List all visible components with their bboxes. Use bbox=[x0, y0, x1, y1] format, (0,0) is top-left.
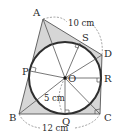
tangent-label-p: P bbox=[22, 66, 29, 77]
measurement-bc: 12 cm bbox=[42, 123, 68, 133]
vertex-label-c: C bbox=[104, 112, 112, 123]
tangent-label-s: S bbox=[82, 32, 89, 43]
vertex-label-a: A bbox=[32, 7, 41, 18]
vertex-label-b: B bbox=[9, 112, 16, 123]
geometry-diagram: A D C B O P S R Q 10 cm 12 cm 5 cm bbox=[0, 0, 119, 140]
measurement-ad: 10 cm bbox=[68, 18, 94, 28]
measurement-radius: 5 cm bbox=[44, 93, 65, 103]
vertex-label-d: D bbox=[104, 48, 112, 59]
center-point bbox=[63, 76, 66, 79]
tangent-label-r: R bbox=[104, 73, 112, 84]
center-label-o: O bbox=[68, 73, 76, 84]
